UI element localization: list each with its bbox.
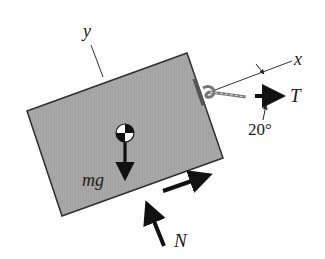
weight-label: mg — [82, 171, 104, 189]
free-body-diagram: y x T 20° mg N — [0, 0, 325, 259]
normal-label: N — [174, 231, 187, 250]
tension-label: T — [290, 86, 301, 105]
angle-arrow-top — [256, 64, 264, 74]
x-axis-line — [215, 61, 292, 90]
normal-arrow — [147, 204, 164, 246]
y-axis-label: y — [83, 22, 91, 40]
diagram-canvas — [0, 0, 325, 259]
angle-label: 20° — [248, 121, 272, 138]
y-axis-line — [91, 45, 103, 77]
rope — [203, 87, 246, 98]
x-axis-label: x — [294, 50, 302, 68]
angle-arrow-bottom — [263, 105, 266, 120]
center-of-gravity-icon — [116, 124, 134, 142]
